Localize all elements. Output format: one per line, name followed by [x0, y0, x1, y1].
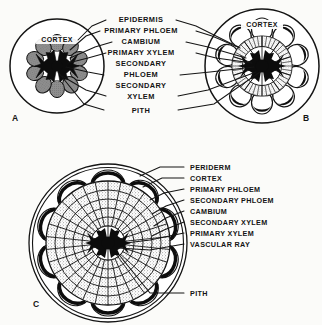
panel-c: C — [29, 164, 187, 322]
label-primary-phloem-c: PRIMARY PHLOEM — [190, 185, 260, 194]
panel-b-pith — [256, 60, 269, 73]
panel-b-letter: B — [303, 113, 309, 123]
panel-a-cortex-label-text: CORTEX — [41, 36, 73, 43]
label-cambium-c: CAMBIUM — [190, 207, 227, 216]
label-secondary-phloem-c: SECONDARY PHLOEM — [190, 196, 274, 205]
label-primary-xylem: PRIMARY XYLEM — [107, 48, 174, 57]
label-pith-bottom: PITH — [190, 289, 208, 298]
label-secondary-xylem-c: SECONDARY XYLEM — [190, 218, 268, 227]
panel-a-letter: A — [12, 113, 18, 123]
label-periderm: PERIDERM — [190, 163, 231, 172]
panel-b: CORTEX B — [205, 9, 319, 123]
label-pith-top: PITH — [132, 106, 151, 115]
label-secondary-2: SECONDARY — [116, 81, 167, 90]
label-epidermis: EPIDERMIS — [119, 15, 164, 24]
stem-anatomy-figure: CORTEX CORTEX A — [0, 0, 322, 325]
label-cortex-c: CORTEX — [190, 174, 222, 183]
panel-b-cortex-label: CORTEX — [246, 21, 278, 28]
label-secondary-phloem: PHLOEM — [124, 70, 158, 79]
label-cambium: CAMBIUM — [122, 37, 161, 46]
label-vascular-ray: VASCULAR RAY — [190, 240, 250, 249]
label-primary-phloem: PRIMARY PHLOEM — [104, 26, 178, 35]
panel-c-pith — [102, 237, 115, 250]
label-primary-xylem-c: PRIMARY XYLEM — [190, 229, 254, 238]
label-secondary-1: SECONDARY — [116, 59, 167, 68]
panel-c-letter: C — [33, 299, 39, 309]
label-secondary-xylem: XYLEM — [127, 92, 155, 101]
panel-a-pith — [51, 60, 62, 71]
